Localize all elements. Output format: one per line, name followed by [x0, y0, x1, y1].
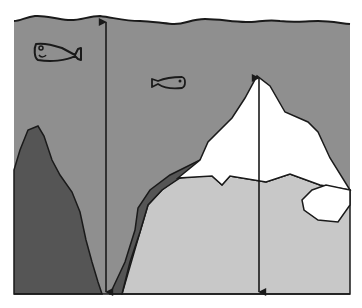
ocean-diagram — [0, 0, 362, 308]
